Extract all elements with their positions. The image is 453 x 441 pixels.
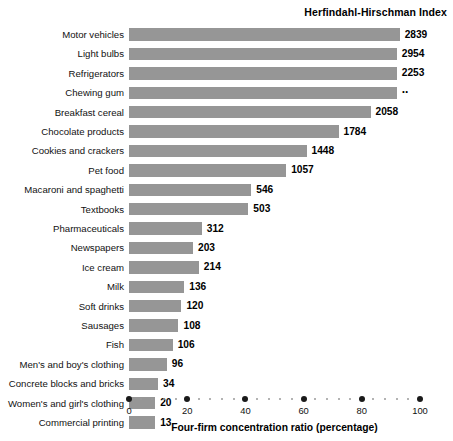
hhi-value-label: 2954: [402, 47, 425, 61]
axis-minor-dot: [233, 398, 235, 400]
bar: [129, 67, 397, 79]
hhi-value-label: 108: [183, 319, 200, 333]
bar: [129, 87, 397, 99]
table-row: Chewing gum..: [0, 84, 453, 103]
category-label: Macaroni and spaghetti: [0, 182, 124, 197]
axis-tick-dot: [301, 396, 307, 402]
hhi-value-label: 546: [256, 183, 273, 197]
category-label: Men's and boy's clothing: [0, 357, 124, 372]
table-row: Ice cream214: [0, 259, 453, 278]
axis-tick-dot: [242, 396, 248, 402]
axis-tick-dot: [359, 396, 365, 402]
axis-tick-dot: [184, 396, 190, 402]
category-label: Soft drinks: [0, 299, 124, 314]
category-label: Pet food: [0, 163, 124, 178]
category-label: Cookies and crackers: [0, 143, 124, 158]
x-axis: Four-firm concentration ratio (percentag…: [0, 396, 453, 441]
axis-minor-dot: [407, 398, 409, 400]
category-label: Pharmaceuticals: [0, 221, 124, 236]
bar: [129, 319, 178, 331]
category-label: Textbooks: [0, 202, 124, 217]
axis-minor-dot: [175, 398, 177, 400]
axis-tick-dot: [417, 396, 423, 402]
hhi-value-label: 503: [253, 202, 270, 216]
table-row: Men's and boy's clothing96: [0, 356, 453, 375]
table-row: Milk136: [0, 278, 453, 297]
axis-tick-label: 80: [357, 405, 367, 416]
axis-minor-dot: [338, 398, 340, 400]
category-label: Refrigerators: [0, 66, 124, 81]
table-row: Textbooks503: [0, 201, 453, 220]
table-row: Chocolate products1784: [0, 123, 453, 142]
axis-minor-dot: [314, 398, 316, 400]
axis-tick-dot: [126, 396, 132, 402]
bar: [129, 281, 184, 293]
category-label: Light bulbs: [0, 46, 124, 61]
hhi-value-label: 214: [204, 260, 221, 274]
axis-tick-label: 20: [182, 405, 192, 416]
bar: [129, 300, 181, 312]
hhi-value-label: 1784: [344, 125, 367, 139]
bar-chart: Herfindahl-Hirschman Index Motor vehicle…: [0, 0, 453, 441]
hhi-value-label: 136: [189, 280, 206, 294]
table-row: Newspapers203: [0, 239, 453, 258]
table-row: Cookies and crackers1448: [0, 142, 453, 161]
axis-minor-dot: [268, 398, 270, 400]
axis-minor-dot: [163, 398, 165, 400]
hhi-value-label: 1448: [312, 144, 335, 158]
axis-minor-dot: [349, 398, 351, 400]
hhi-value-label: 2839: [405, 28, 428, 42]
hhi-value-label: 2253: [402, 66, 425, 80]
hhi-value-label: 120: [186, 299, 203, 313]
axis-minor-dot: [326, 398, 328, 400]
plot-area: Motor vehicles2839Light bulbs2954Refrige…: [0, 26, 453, 398]
category-label: Motor vehicles: [0, 27, 124, 42]
hhi-value-label: 96: [172, 357, 183, 371]
axis-tick-label: 100: [412, 405, 428, 416]
table-row: Soft drinks120: [0, 298, 453, 317]
table-row: Concrete blocks and bricks34: [0, 375, 453, 394]
table-row: Light bulbs2954: [0, 45, 453, 64]
table-row: Sausages108: [0, 317, 453, 336]
bar: [129, 106, 371, 118]
x-axis-title: Four-firm concentration ratio (percentag…: [129, 422, 420, 433]
axis-minor-dot: [279, 398, 281, 400]
hhi-value-label: 2058: [376, 105, 399, 119]
hhi-value-label: 1057: [291, 163, 314, 177]
category-label: Concrete blocks and bricks: [0, 376, 124, 391]
bar: [129, 48, 397, 60]
bar: [129, 203, 248, 215]
table-row: Motor vehicles2839: [0, 26, 453, 45]
hhi-value-label: 203: [198, 241, 215, 255]
category-label: Breakfast cereal: [0, 105, 124, 120]
table-row: Breakfast cereal2058: [0, 104, 453, 123]
hhi-value-label: 312: [207, 222, 224, 236]
axis-minor-dot: [221, 398, 223, 400]
axis-tick-label: 60: [298, 405, 308, 416]
bar: [129, 261, 199, 273]
bar: [129, 358, 167, 370]
axis-minor-dot: [396, 398, 398, 400]
axis-minor-dot: [384, 398, 386, 400]
table-row: Macaroni and spaghetti546: [0, 181, 453, 200]
bar: [129, 339, 173, 351]
hhi-value-label: ..: [402, 82, 409, 96]
category-label: Milk: [0, 279, 124, 294]
table-row: Fish106: [0, 336, 453, 355]
category-label: Chocolate products: [0, 124, 124, 139]
bar: [129, 164, 286, 176]
hhi-column-header: Herfindahl-Hirschman Index: [304, 6, 447, 18]
category-label: Ice cream: [0, 260, 124, 275]
axis-minor-dot: [151, 398, 153, 400]
hhi-value-label: 34: [163, 377, 174, 391]
axis-minor-dot: [291, 398, 293, 400]
bar: [129, 184, 251, 196]
axis-tick-label: 0: [126, 405, 131, 416]
category-label: Fish: [0, 337, 124, 352]
table-row: Pet food1057: [0, 162, 453, 181]
table-row: Refrigerators2253: [0, 65, 453, 84]
bar: [129, 28, 400, 40]
category-label: Newspapers: [0, 240, 124, 255]
bar: [129, 125, 339, 137]
axis-minor-dot: [256, 398, 258, 400]
